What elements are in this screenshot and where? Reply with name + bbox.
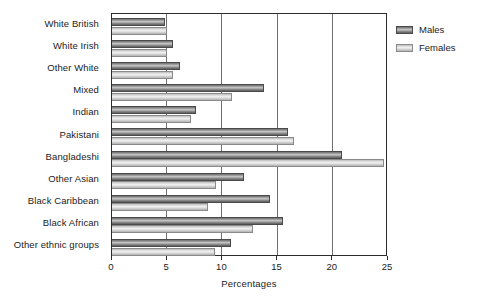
bar-group [112, 235, 386, 257]
x-tick-label: 25 [382, 261, 393, 272]
x-tick-mark [387, 256, 388, 260]
x-tick-mark [166, 256, 167, 260]
legend-swatch-icon [396, 44, 413, 52]
bar-chart: White BritishWhite IrishOther WhiteMixed… [0, 0, 480, 301]
legend-label: Males [419, 24, 444, 35]
legend-item-females: Females [396, 42, 476, 53]
x-axis-title: Percentages [111, 278, 387, 289]
bar-females [112, 71, 173, 79]
y-axis-label: Mixed [0, 84, 105, 95]
bar-females [112, 115, 191, 123]
y-axis-label: Other White [0, 62, 105, 73]
bar-males [112, 151, 342, 159]
y-axis-category-labels: White BritishWhite IrishOther WhiteMixed… [0, 13, 105, 256]
y-axis-label: Pakistani [0, 129, 105, 140]
bar-group [112, 58, 386, 80]
y-axis-label: Black African [0, 217, 105, 228]
y-axis-label: Indian [0, 106, 105, 117]
legend-swatch-icon [396, 26, 413, 34]
bar-males [112, 217, 283, 225]
x-tick-label: 10 [216, 261, 227, 272]
bar-group [112, 80, 386, 102]
x-tick-mark [276, 256, 277, 260]
bar-males [112, 62, 180, 70]
bar-females [112, 248, 215, 256]
bar-males [112, 173, 244, 181]
x-tick-label: 15 [271, 261, 282, 272]
bar-males [112, 239, 231, 247]
bar-group [112, 147, 386, 169]
bar-males [112, 40, 173, 48]
bar-group [112, 36, 386, 58]
chart-legend: MalesFemales [396, 24, 476, 60]
bar-males [112, 84, 264, 92]
bar-males [112, 195, 270, 203]
bar-females [112, 137, 294, 145]
y-axis-label: Bangladeshi [0, 151, 105, 162]
y-axis-label: White British [0, 18, 105, 29]
bar-females [112, 203, 208, 211]
bar-group [112, 14, 386, 36]
plot-area [111, 13, 387, 256]
x-tick-label: 20 [327, 261, 338, 272]
bar-females [112, 49, 167, 57]
y-axis-label: Black Caribbean [0, 195, 105, 206]
bar-females [112, 27, 167, 35]
bar-group [112, 124, 386, 146]
y-axis-label: Other Asian [0, 173, 105, 184]
legend-label: Females [419, 42, 455, 53]
x-tick-mark [221, 256, 222, 260]
y-axis-label: White Irish [0, 40, 105, 51]
bar-group [112, 169, 386, 191]
legend-item-males: Males [396, 24, 476, 35]
bar-males [112, 128, 288, 136]
bar-females [112, 159, 384, 167]
x-axis-ticks: 0510152025 [0, 256, 480, 276]
bar-females [112, 181, 216, 189]
bar-group [112, 213, 386, 235]
x-tick-label: 5 [164, 261, 169, 272]
y-axis-label: Other ethnic groups [0, 239, 105, 250]
bar-group [112, 102, 386, 124]
bar-males [112, 18, 165, 26]
x-tick-label: 0 [108, 261, 113, 272]
x-tick-mark [331, 256, 332, 260]
bar-females [112, 93, 232, 101]
bar-females [112, 225, 253, 233]
x-tick-mark [111, 256, 112, 260]
bar-group [112, 191, 386, 213]
bar-males [112, 106, 196, 114]
